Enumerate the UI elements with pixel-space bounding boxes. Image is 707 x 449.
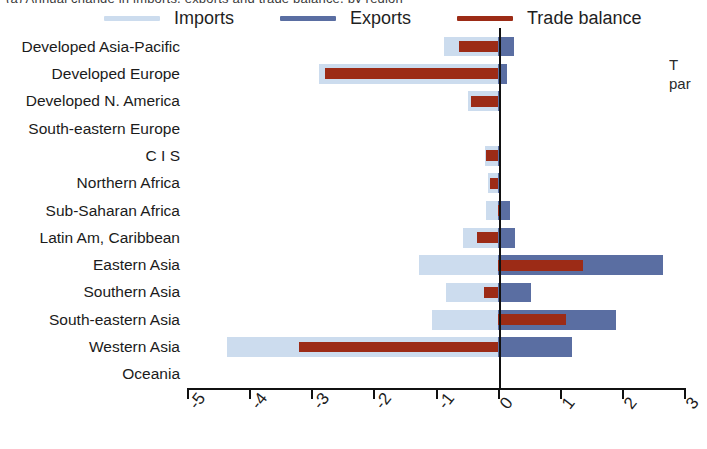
bar-row bbox=[187, 279, 684, 306]
bar-imports bbox=[432, 310, 497, 330]
plot-area bbox=[187, 33, 684, 388]
bar-trade-balance bbox=[299, 342, 498, 353]
x-axis-tick-label: 2 bbox=[620, 394, 642, 414]
y-axis-category-labels: Developed Asia-PacificDeveloped EuropeDe… bbox=[0, 33, 180, 388]
bar-row bbox=[187, 197, 684, 224]
bar-row bbox=[187, 333, 684, 360]
legend-item-trade-balance[interactable]: Trade balance bbox=[457, 8, 641, 29]
bar-trade-balance bbox=[498, 314, 566, 325]
bar-exports bbox=[498, 283, 531, 303]
bar-row bbox=[187, 33, 684, 60]
bar-trade-balance bbox=[325, 68, 498, 79]
y-axis-label: Latin Am, Caribbean bbox=[0, 230, 180, 246]
x-axis: -5-4-3-2-10123 bbox=[187, 388, 684, 390]
bar-row bbox=[187, 88, 684, 115]
x-axis-tick-label: 1 bbox=[558, 394, 580, 414]
y-axis-label: South-eastern Europe bbox=[0, 121, 180, 137]
bar-trade-balance bbox=[498, 260, 583, 271]
y-axis-label: South-eastern Asia bbox=[0, 312, 180, 328]
side-note-line-2: par bbox=[669, 74, 707, 93]
y-axis-label: Developed N. America bbox=[0, 93, 180, 109]
bar-trade-balance bbox=[486, 150, 497, 161]
bar-row bbox=[187, 142, 684, 169]
bar-exports bbox=[498, 337, 573, 357]
y-axis-label: Sub-Saharan Africa bbox=[0, 203, 180, 219]
bar-imports bbox=[486, 201, 497, 221]
bar-row bbox=[187, 224, 684, 251]
chart-legend: ImportsExportsTrade balance bbox=[104, 6, 624, 30]
bar-trade-balance bbox=[490, 178, 498, 189]
y-axis-label: C I S bbox=[0, 148, 180, 164]
x-axis-tick-label: 3 bbox=[682, 394, 704, 414]
bar-row bbox=[187, 361, 684, 388]
bar-row bbox=[187, 170, 684, 197]
legend-swatch-icon bbox=[280, 16, 336, 21]
y-axis-label: Developed Asia-Pacific bbox=[0, 39, 180, 55]
x-axis-tick-label: 0 bbox=[496, 394, 518, 414]
trade-balance-chart: (a) Annual change in imports, exports an… bbox=[0, 0, 707, 449]
bar-row bbox=[187, 60, 684, 87]
y-axis-label: Southern Asia bbox=[0, 284, 180, 300]
legend-swatch-icon bbox=[457, 16, 513, 21]
y-axis-label: Western Asia bbox=[0, 339, 180, 355]
bar-imports bbox=[419, 255, 498, 275]
chart-title-cropped: (a) Annual change in imports, exports an… bbox=[6, 0, 566, 3]
bar-trade-balance bbox=[484, 287, 498, 298]
side-note-cropped: T par bbox=[669, 55, 707, 93]
bar-rows bbox=[187, 33, 684, 388]
bar-row bbox=[187, 251, 684, 278]
side-note-line-1: T bbox=[669, 55, 707, 74]
legend-label: Exports bbox=[350, 8, 411, 29]
bar-trade-balance bbox=[477, 232, 498, 243]
bar-trade-balance bbox=[471, 96, 498, 107]
y-axis-label: Developed Europe bbox=[0, 66, 180, 82]
y-axis-label: Oceania bbox=[0, 366, 180, 382]
zero-axis-line bbox=[499, 28, 501, 390]
legend-swatch-icon bbox=[104, 16, 160, 21]
y-axis-label: Eastern Asia bbox=[0, 257, 180, 273]
legend-item-imports[interactable]: Imports bbox=[104, 8, 234, 29]
bar-row bbox=[187, 306, 684, 333]
legend-item-exports[interactable]: Exports bbox=[280, 8, 411, 29]
bar-row bbox=[187, 115, 684, 142]
bar-trade-balance bbox=[459, 41, 498, 52]
legend-label: Trade balance bbox=[527, 8, 641, 29]
y-axis-label: Northern Africa bbox=[0, 175, 180, 191]
legend-label: Imports bbox=[174, 8, 234, 29]
